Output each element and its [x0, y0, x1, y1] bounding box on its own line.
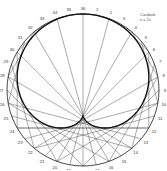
chord-lines: [7, 14, 159, 166]
point-label: 13: [143, 140, 148, 145]
chord-line: [8, 77, 57, 162]
point-label: 31: [18, 35, 23, 40]
point-label: 28: [0, 73, 5, 78]
point-label: 12: [152, 129, 157, 134]
point-label: 26: [0, 102, 5, 107]
point-label: 15: [122, 159, 127, 164]
point-label: 34: [53, 10, 58, 15]
point-label: 14: [133, 150, 138, 155]
chord-line: [109, 77, 158, 162]
point-label: 9: [164, 88, 167, 93]
point-label: 33: [40, 16, 45, 21]
point-label: 5: [145, 35, 148, 40]
point-labels: 1234567891011121314151617181920212223242…: [0, 6, 167, 171]
chord-line: [8, 103, 141, 139]
point-label: 7: [159, 59, 162, 64]
point-label: 23: [18, 140, 23, 145]
caption-formula: n = 2x: [140, 17, 155, 22]
point-label: 25: [4, 116, 9, 121]
point-label: 1: [96, 7, 99, 12]
point-label: 19: [66, 168, 71, 170]
chord-line: [25, 103, 158, 139]
point-label: 20: [53, 165, 58, 170]
point-label: 11: [158, 116, 163, 121]
point-label: 32: [28, 25, 33, 30]
point-label: 4: [135, 25, 138, 30]
point-label: 3: [123, 16, 126, 21]
point-label: 16: [109, 165, 114, 170]
point-label: 2: [110, 10, 113, 15]
point-label: 30: [10, 47, 15, 52]
point-label: 6: [153, 47, 156, 52]
point-label: 8: [163, 73, 166, 78]
point-label: 27: [0, 88, 4, 93]
cardioid-diagram: 1234567891011121314151617181920212223242…: [0, 0, 167, 170]
point-label: 29: [4, 59, 9, 64]
chord-line: [12, 64, 35, 148]
caption: Cardioid n = 2x: [140, 12, 155, 22]
point-label: 10: [161, 102, 166, 107]
point-label: 36: [81, 6, 86, 11]
point-label: 22: [28, 150, 33, 155]
point-label: 35: [66, 7, 71, 12]
point-label: 17: [95, 168, 100, 170]
point-label: 24: [10, 129, 15, 134]
point-label: 21: [40, 159, 45, 164]
point-label: 18: [81, 170, 86, 171]
